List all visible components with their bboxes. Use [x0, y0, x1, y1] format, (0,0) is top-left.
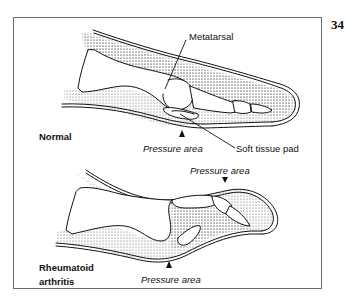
normal-pressure-arrow-icon: [179, 130, 185, 137]
ra-dorsal-pressure-label: Pressure area: [190, 166, 250, 176]
normal-pressure-label: Pressure area: [143, 144, 203, 154]
ra-title-line1: Rheumatoid: [39, 263, 94, 273]
metatarsal-label: Metatarsal: [189, 32, 233, 42]
ra-plantar-pressure-label: Pressure area: [141, 275, 201, 285]
foot-pressure-diagram: 34: [0, 0, 347, 305]
normal-title: Normal: [39, 132, 72, 142]
ra-plantar-pressure-arrow-icon: [166, 261, 172, 268]
ra-title-line2: arthritis: [39, 277, 74, 287]
normal-foot: [62, 30, 299, 128]
soft-tissue-pad-label: Soft tissue pad: [236, 144, 299, 154]
ra-dorsal-pressure-arrow-icon: [222, 177, 228, 183]
ra-foot: [56, 170, 278, 262]
